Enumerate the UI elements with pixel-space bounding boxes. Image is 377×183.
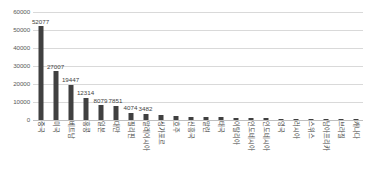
bar-chart: 6000050000400003000020000100000 52077270…: [0, 0, 377, 183]
x-axis-label-slot: 캐나다: [348, 121, 363, 183]
x-axis-label-slot: 인도네시아: [258, 121, 273, 183]
bar[interactable]: [128, 113, 133, 120]
bar-slot: 52077: [33, 12, 48, 120]
y-axis-tick-label: 0: [0, 117, 30, 123]
x-axis-tick-label: 일본: [97, 121, 103, 133]
x-axis-label-slot: 일본: [93, 121, 108, 183]
bar-slot: [198, 12, 213, 120]
x-axis-label-slot: 신흥국: [183, 121, 198, 183]
x-axis-label-slot: 인도네시아: [243, 121, 258, 183]
bar[interactable]: [53, 71, 58, 120]
x-axis-tick-label: 브라질: [337, 121, 343, 139]
bar-slot: [318, 12, 333, 120]
x-axis-tick-label: 미국: [52, 121, 58, 133]
x-axis: 중국미국베트남홍콩일본대만필리핀말레이시아싱가포르호주신흥국말련태국이탈리아인도…: [33, 121, 363, 183]
x-axis-label-slot: 러시아: [288, 121, 303, 183]
bar-value-label: 52077: [32, 19, 49, 25]
y-axis: 6000050000400003000020000100000: [0, 12, 33, 120]
bar-slot: [168, 12, 183, 120]
bar-slot: [213, 12, 228, 120]
y-axis-tick-label: 40000: [0, 45, 30, 51]
bar-slot: [228, 12, 243, 120]
bar-series: 520772700719447123148079785140743482: [33, 12, 363, 120]
x-axis-tick-label: 대만: [112, 121, 118, 133]
bar-value-label: 19447: [62, 77, 79, 83]
bar-slot: [288, 12, 303, 120]
x-axis-label-slot: 남아프리카: [318, 121, 333, 183]
bar-slot: 12314: [78, 12, 93, 120]
x-axis-tick-label: 이탈리아: [232, 121, 238, 145]
x-axis-tick-label: 태국: [217, 121, 223, 133]
bar[interactable]: [308, 119, 313, 120]
bar[interactable]: [38, 26, 43, 120]
x-axis-label-slot: 베트남: [63, 121, 78, 183]
x-axis-label-slot: 홍콩: [78, 121, 93, 183]
bar[interactable]: [278, 119, 283, 120]
x-axis-tick-label: 인도네시아: [247, 121, 253, 151]
x-axis-label-slot: 말련: [198, 121, 213, 183]
bar[interactable]: [83, 98, 88, 120]
x-axis-label-slot: 대만: [108, 121, 123, 183]
y-axis-tick-label: 60000: [0, 9, 30, 15]
bar[interactable]: [248, 118, 253, 120]
x-axis-label-slot: 미국: [48, 121, 63, 183]
x-axis-label-slot: 중국: [33, 121, 48, 183]
x-axis-label-slot: 호주: [168, 121, 183, 183]
bar-slot: [243, 12, 258, 120]
bar[interactable]: [338, 119, 343, 120]
bar[interactable]: [158, 115, 163, 120]
bar-slot: [258, 12, 273, 120]
x-axis-tick-label: 인도네시아: [262, 121, 268, 151]
bar[interactable]: [293, 119, 298, 120]
bar[interactable]: [113, 106, 118, 120]
bar-slot: 8079: [93, 12, 108, 120]
bar-value-label: 8079: [94, 98, 108, 104]
bar-slot: [153, 12, 168, 120]
x-axis-label-slot: 필리핀: [123, 121, 138, 183]
x-axis-label-slot: 스위스: [303, 121, 318, 183]
x-axis-tick-label: 캐나다: [352, 121, 358, 139]
bar-value-label: 27007: [47, 64, 64, 70]
x-axis-tick-label: 신흥국: [187, 121, 193, 139]
y-axis-tick-label: 30000: [0, 63, 30, 69]
x-axis-tick-label: 말련: [202, 121, 208, 133]
y-axis-tick-label: 20000: [0, 81, 30, 87]
bar-value-label: 3482: [139, 106, 153, 112]
bar[interactable]: [353, 119, 358, 120]
bar-slot: 4074: [123, 12, 138, 120]
bar-slot: 3482: [138, 12, 153, 120]
x-axis-label-slot: 싱가포르: [153, 121, 168, 183]
x-axis-tick-label: 말레이시아: [142, 121, 148, 151]
x-axis-tick-label: 스위스: [307, 121, 313, 139]
bar[interactable]: [263, 118, 268, 120]
bar[interactable]: [188, 117, 193, 120]
bar[interactable]: [203, 117, 208, 120]
bar-slot: [273, 12, 288, 120]
x-axis-label-slot: 이탈리아: [228, 121, 243, 183]
x-axis-label-slot: 태국: [213, 121, 228, 183]
bar[interactable]: [173, 116, 178, 120]
x-axis-tick-label: 영국: [277, 121, 283, 133]
bar-slot: 7851: [108, 12, 123, 120]
bar-slot: [348, 12, 363, 120]
bar[interactable]: [98, 105, 103, 120]
x-axis-tick-label: 싱가포르: [157, 121, 163, 145]
bar-slot: [333, 12, 348, 120]
bar-slot: 19447: [63, 12, 78, 120]
x-axis-tick-label: 필리핀: [127, 121, 133, 139]
x-axis-tick-label: 남아프리카: [322, 121, 328, 151]
bar[interactable]: [68, 85, 73, 120]
bar[interactable]: [233, 118, 238, 120]
x-axis-tick-label: 중국: [37, 121, 43, 133]
x-axis-label-slot: 말레이시아: [138, 121, 153, 183]
bar-slot: 27007: [48, 12, 63, 120]
bar-value-label: 7851: [109, 98, 123, 104]
bar[interactable]: [143, 114, 148, 120]
x-axis-tick-label: 홍콩: [82, 121, 88, 133]
bar[interactable]: [218, 117, 223, 120]
y-axis-tick-label: 50000: [0, 27, 30, 33]
x-axis-tick-label: 러시아: [292, 121, 298, 139]
bar-value-label: 12314: [77, 90, 94, 96]
y-axis-tick-label: 10000: [0, 99, 30, 105]
bar[interactable]: [323, 119, 328, 120]
